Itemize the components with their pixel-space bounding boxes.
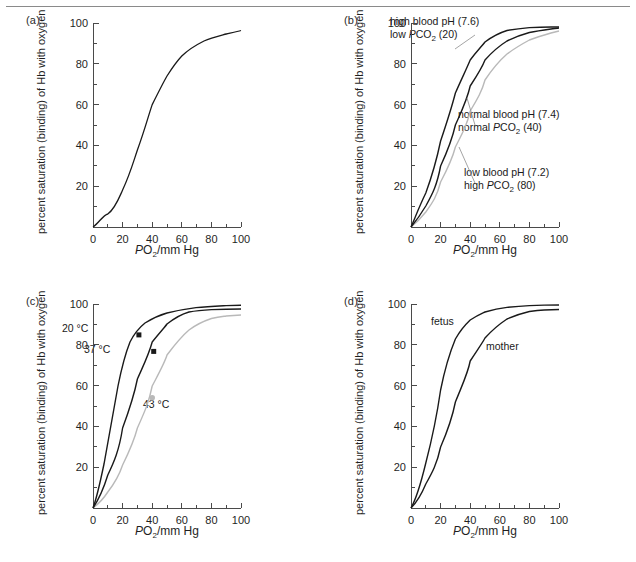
panel-c-y-axis-label: percent saturation (binding) of Hb with … xyxy=(35,295,47,515)
panel-d: (d) percent saturation (binding) of Hb w… xyxy=(318,281,636,562)
x-tick-100: 100 xyxy=(550,514,568,526)
y-tick-100: 100 xyxy=(388,17,406,29)
panel-c-svg xyxy=(93,304,241,508)
y-tick-40: 40 xyxy=(76,420,88,432)
y-tick-20: 20 xyxy=(76,180,88,192)
y-major-ticks xyxy=(412,23,417,186)
panel-d-svg xyxy=(411,304,559,508)
panel-b-plot-area: 100 80 60 40 20 0 20 40 60 80 100 xyxy=(411,23,559,227)
y-tick-40: 40 xyxy=(394,420,406,432)
annotation-20c: 20 °C xyxy=(62,322,88,335)
y-tick-80: 80 xyxy=(394,58,406,70)
y-major-ticks xyxy=(94,23,99,186)
panel-b-svg xyxy=(411,23,559,227)
y-tick-80: 80 xyxy=(76,339,88,351)
panel-d-x-axis-label: PO2/mm Hg xyxy=(411,524,559,540)
y-major-ticks xyxy=(94,304,99,467)
y-tick-80: 80 xyxy=(76,58,88,70)
curve-mother xyxy=(411,310,559,509)
y-tick-20: 20 xyxy=(394,180,406,192)
x-tick-60: 60 xyxy=(176,514,188,526)
x-tick-40: 40 xyxy=(146,514,158,526)
y-tick-60: 60 xyxy=(76,380,88,392)
curve-normal xyxy=(93,31,241,228)
marker-20c xyxy=(136,332,141,337)
axis-lines xyxy=(94,304,242,508)
curve-high-ph xyxy=(411,27,559,227)
panel-a-svg xyxy=(93,23,241,227)
x-tick-80: 80 xyxy=(523,233,535,245)
x-tick-100: 100 xyxy=(550,233,568,245)
panel-b: (b) percent saturation (binding) of Hb w… xyxy=(318,0,636,281)
y-tick-20: 20 xyxy=(76,461,88,473)
x-tick-100: 100 xyxy=(232,514,250,526)
panel-a-x-axis-label: PO2/mm Hg xyxy=(93,243,241,259)
panel-a-plot-area: 100 80 60 40 20 0 20 40 60 80 100 xyxy=(93,23,241,227)
x-tick-60: 60 xyxy=(494,514,506,526)
x-major-ticks xyxy=(123,222,241,227)
x-tick-80: 80 xyxy=(205,233,217,245)
x-tick-40: 40 xyxy=(464,514,476,526)
y-major-ticks xyxy=(412,304,417,467)
curve-fetus xyxy=(411,305,559,508)
y-tick-80: 80 xyxy=(394,339,406,351)
panel-a-y-axis-label: percent saturation (binding) of Hb with … xyxy=(35,14,47,234)
x-tick-100: 100 xyxy=(232,233,250,245)
x-major-ticks xyxy=(441,503,559,508)
axis-lines xyxy=(412,23,560,227)
x-tick-80: 80 xyxy=(205,514,217,526)
panel-a: (a) percent saturation (binding) of Hb w… xyxy=(0,0,318,281)
x-tick-0: 0 xyxy=(90,233,96,245)
y-tick-60: 60 xyxy=(76,99,88,111)
y-tick-100: 100 xyxy=(70,17,88,29)
curve-20c xyxy=(93,305,241,508)
marker-37c xyxy=(151,349,156,354)
curve-37c xyxy=(93,309,241,508)
y-tick-60: 60 xyxy=(394,99,406,111)
panel-b-x-axis-label: PO2/mm Hg xyxy=(411,243,559,259)
x-tick-40: 40 xyxy=(146,233,158,245)
x-tick-40: 40 xyxy=(464,233,476,245)
panel-c-x-axis-label: PO2/mm Hg xyxy=(93,524,241,540)
y-tick-60: 60 xyxy=(394,380,406,392)
panel-d-y-axis-label: percent saturation (binding) of Hb with … xyxy=(353,295,365,515)
curve-normal-ph xyxy=(411,28,559,227)
y-tick-40: 40 xyxy=(76,139,88,151)
panel-c-plot-area: 100 80 60 40 20 0 20 40 60 80 100 xyxy=(93,304,241,508)
y-tick-40: 40 xyxy=(394,139,406,151)
x-tick-20: 20 xyxy=(116,233,128,245)
panel-b-y-axis-label: percent saturation (binding) of Hb with … xyxy=(353,14,365,234)
x-tick-0: 0 xyxy=(408,233,414,245)
curve-43c xyxy=(93,315,241,508)
temperature-markers xyxy=(136,332,156,400)
y-tick-20: 20 xyxy=(394,461,406,473)
panel-c: (c) percent saturation (binding) of Hb w… xyxy=(0,281,318,562)
x-tick-0: 0 xyxy=(90,514,96,526)
x-tick-20: 20 xyxy=(116,514,128,526)
axis-lines xyxy=(412,304,560,508)
y-tick-100: 100 xyxy=(388,298,406,310)
x-tick-0: 0 xyxy=(408,514,414,526)
panel-d-plot-area: 100 80 60 40 20 0 20 40 60 80 100 xyxy=(411,304,559,508)
marker-43c xyxy=(149,395,155,401)
x-tick-20: 20 xyxy=(434,514,446,526)
x-tick-20: 20 xyxy=(434,233,446,245)
x-tick-60: 60 xyxy=(494,233,506,245)
x-tick-60: 60 xyxy=(176,233,188,245)
x-major-ticks xyxy=(441,222,559,227)
x-tick-80: 80 xyxy=(523,514,535,526)
x-major-ticks xyxy=(123,503,241,508)
y-tick-100: 100 xyxy=(70,298,88,310)
axis-lines xyxy=(94,23,242,227)
